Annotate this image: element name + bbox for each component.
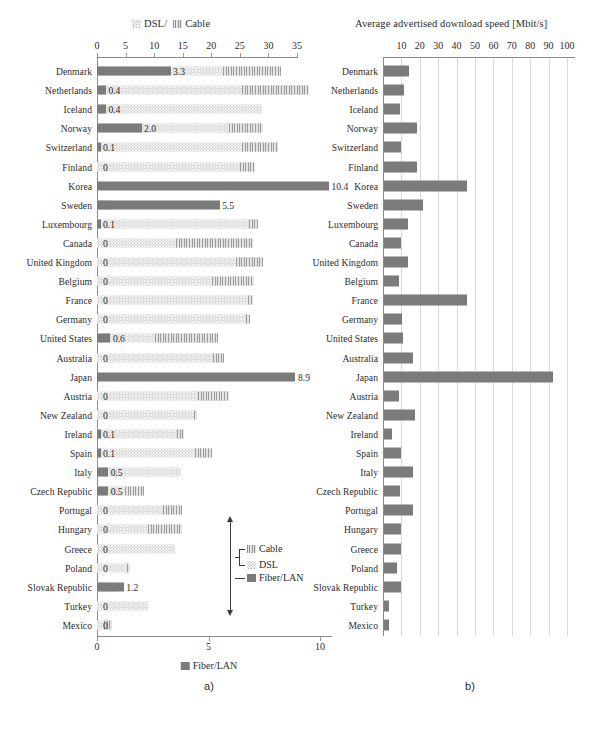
bar-cable-0 — [223, 67, 281, 76]
bar-dsl-11 — [97, 277, 212, 286]
fiber-value-label-5: 0 — [103, 161, 108, 172]
fiber-value-label-1: 0.4 — [108, 85, 120, 96]
panel-b-gridline-10 — [401, 58, 402, 636]
category-label-iceland: Iceland — [4, 104, 92, 115]
bar-dsl-4 — [97, 143, 242, 152]
panel-b-category-label-germany: Germany — [290, 314, 378, 325]
panel-b-category-label-united-states: United States — [290, 333, 378, 344]
panel-b-category-label-france: France — [290, 295, 378, 306]
category-label-portugal: Portugal — [4, 505, 92, 516]
fiber-value-label-19: 0.1 — [103, 428, 115, 439]
bar-dsl-12 — [97, 296, 248, 305]
panel-a-bottom-tickmark-5 — [209, 637, 210, 641]
panel-b-category-label-denmark: Denmark — [290, 66, 378, 77]
category-label-poland: Poland — [4, 562, 92, 573]
panel-a-top-tick-35: 35 — [292, 40, 302, 51]
panel-b-category-label-spain: Spain — [290, 448, 378, 459]
panel-b-top-axis — [383, 57, 575, 58]
panel-b-bar-29 — [384, 619, 389, 630]
bar-dsl-15 — [97, 353, 213, 362]
category-label-australia: Australia — [4, 352, 92, 363]
panel-b-bar-1 — [384, 85, 404, 96]
panel-b-category-label-iceland: Iceland — [290, 104, 378, 115]
panel-a-bottom-tickmark-0 — [97, 637, 98, 641]
legend-arrow-shaft — [230, 522, 231, 610]
legend-bracket-arm-top — [240, 549, 245, 550]
fiber-value-label-25: 0 — [103, 543, 108, 554]
bar-fiber-1 — [97, 86, 106, 95]
fiber-value-label-26: 0 — [103, 562, 108, 573]
panel-b-tick-90: 90 — [544, 40, 554, 51]
fiber-value-label-27: 1.2 — [126, 581, 138, 592]
category-label-united-kingdom: United Kingdom — [4, 257, 92, 268]
panel-b-category-label-sweden: Sweden — [290, 199, 378, 210]
bar-dsl-8 — [97, 219, 249, 228]
fiber-legend-swatch-bottom — [181, 662, 190, 670]
dsl-legend-swatch — [247, 561, 256, 569]
fiber-value-label-3: 2.0 — [144, 123, 156, 134]
panel-b-tick-100: 100 — [560, 40, 575, 51]
panel-b-category-label-switzerland: Switzerland — [290, 142, 378, 153]
bar-cable-10 — [236, 258, 263, 267]
panel-a-top-tickmark-5 — [126, 53, 127, 57]
panel-b-tick-20: 20 — [415, 40, 425, 51]
panel-b-category-label-portugal: Portugal — [290, 505, 378, 516]
panel-b-category-label-canada: Canada — [290, 237, 378, 248]
panel-a-bottom-axis — [97, 636, 332, 637]
cable-legend-swatch — [247, 545, 256, 553]
panel-b-title: Average advertised download speed [Mbit/… — [355, 18, 547, 29]
category-label-netherlands: Netherlands — [4, 85, 92, 96]
panel-b-category-label-korea: Korea — [290, 180, 378, 191]
panel-b-gridline-50 — [475, 58, 476, 636]
fiber-value-label-17: 0 — [103, 390, 108, 401]
bar-cable-19 — [177, 429, 184, 438]
category-label-japan: Japan — [4, 371, 92, 382]
panel-b-bar-17 — [384, 390, 399, 401]
panel-b-bar-5 — [384, 161, 417, 172]
category-label-turkey: Turkey — [4, 600, 92, 611]
panel-a-bottom-tick-0: 0 — [95, 641, 100, 652]
panel-b-category-label-new-zealand: New Zealand — [290, 409, 378, 420]
panel-b-category-label-belgium: Belgium — [290, 276, 378, 287]
bar-fiber-21 — [97, 468, 108, 477]
panel-b-category-label-italy: Italy — [290, 467, 378, 478]
fiber-value-label-8: 0.1 — [103, 218, 115, 229]
bar-cable-23 — [163, 506, 182, 515]
bar-cable-17 — [198, 391, 229, 400]
fiber-value-label-18: 0 — [103, 409, 108, 420]
panel-a-top-tickmark-15 — [183, 53, 184, 57]
fiber-value-label-29: 0 — [103, 619, 108, 630]
panel-b-bar-2 — [384, 104, 400, 115]
panel-b-bar-7 — [384, 199, 423, 210]
dsl-legend-label: DSL — [259, 559, 278, 570]
panel-b-tick-50: 50 — [470, 40, 480, 51]
panel-a-top-axis — [97, 57, 298, 58]
legend-bracket-arm-fiber-left — [235, 578, 240, 579]
fiber-value-label-4: 0.1 — [103, 142, 115, 153]
panel-b-bar-18 — [384, 409, 415, 420]
panel-b-category-label-ireland: Ireland — [290, 428, 378, 439]
panel-a-top-tickmark-10 — [154, 53, 155, 57]
bar-cable-11 — [212, 277, 254, 286]
panel-b-category-label-luxembourg: Luxembourg — [290, 218, 378, 229]
bar-dsl-9 — [97, 238, 176, 247]
panel-b-tick-80: 80 — [525, 40, 535, 51]
bar-fiber-16 — [97, 372, 295, 381]
bar-cable-3 — [229, 124, 263, 133]
category-label-hungary: Hungary — [4, 524, 92, 535]
cable-legend-label: Cable — [259, 543, 282, 554]
panel-b-bar-28 — [384, 600, 389, 611]
category-label-canada: Canada — [4, 237, 92, 248]
bar-cable-15 — [213, 353, 224, 362]
bar-fiber-3 — [97, 124, 142, 133]
legend-bracket-arm-mid — [235, 557, 240, 558]
fiber-legend-label-bottom: Fiber/LAN — [193, 660, 237, 671]
bar-fiber-19 — [97, 429, 101, 438]
fiber-value-label-14: 0.6 — [113, 333, 125, 344]
panel-b-bar-11 — [384, 276, 399, 287]
fiber-value-label-11: 0 — [103, 276, 108, 287]
panel-b-category-label-slovak-republic: Slovak Republic — [290, 581, 378, 592]
category-label-united-states: United States — [4, 333, 92, 344]
bar-dsl-13 — [97, 315, 246, 324]
panel-b-tick-10: 10 — [396, 40, 406, 51]
